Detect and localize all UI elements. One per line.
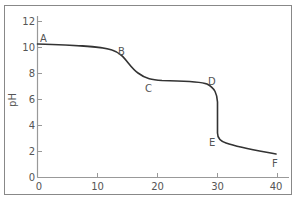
y-tick-label: 6 — [29, 94, 35, 105]
y-tick-label: 8 — [29, 68, 35, 79]
point-label-f: F — [272, 158, 278, 169]
y-tick-label: 10 — [22, 42, 35, 53]
y-tick-label: 12 — [22, 16, 35, 27]
chart-frame — [5, 6, 292, 195]
x-ticks — [98, 173, 278, 178]
x-tick-label: 10 — [91, 181, 104, 192]
titration-curve — [38, 44, 277, 154]
point-label-c: C — [145, 83, 152, 94]
y-tick-label: 4 — [29, 120, 35, 131]
y-axis-label: pH — [7, 93, 18, 107]
x-tick-label: 40 — [270, 181, 283, 192]
x-tick-labels: 0 10 20 30 40 — [36, 181, 283, 192]
point-label-e: E — [209, 137, 215, 148]
x-tick-label: 20 — [151, 181, 164, 192]
titration-chart: 0 2 4 6 8 10 12 0 10 20 30 40 pH A B C D… — [0, 0, 297, 200]
y-tick-label: 2 — [29, 146, 35, 157]
y-tick-labels: 0 2 4 6 8 10 12 — [22, 16, 35, 183]
point-label-b: B — [118, 46, 125, 57]
x-tick-label: 30 — [211, 181, 224, 192]
point-label-d: D — [208, 76, 216, 87]
y-tick-label: 0 — [29, 172, 35, 183]
x-tick-label: 0 — [36, 181, 42, 192]
point-label-a: A — [40, 33, 47, 44]
